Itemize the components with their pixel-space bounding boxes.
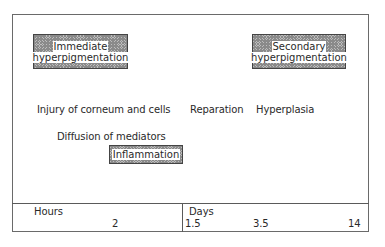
days-unit-label: Days [189,206,214,217]
immediate-label-line2: hyperpigmentation [32,52,130,63]
immediate-label-line1: Immediate [53,41,109,52]
stage-diffusion: Diffusion of mediators [57,131,166,142]
stage-injury: Injury of corneum and cells [37,104,170,115]
days-tick-14: 14 [348,218,361,229]
secondary-label-line2: hyperpigmentation [250,52,348,63]
days-tick-3-5: 3.5 [253,218,269,229]
inflammation-box: Inflammation [109,145,183,164]
hours-unit-label: Hours [34,206,63,217]
inflammation-label: Inflammation [112,149,180,160]
hours-tick-2: 2 [112,218,118,229]
hours-days-divider [182,203,183,232]
secondary-hyperpigmentation-box: Secondary hyperpigmentation [252,34,346,69]
stage-reparation: Reparation [190,104,244,115]
immediate-hyperpigmentation-box: Immediate hyperpigmentation [33,34,128,69]
days-tick-1-5: 1.5 [185,218,201,229]
stage-hyperplasia: Hyperplasia [256,104,314,115]
secondary-label-line1: Secondary [272,41,327,52]
